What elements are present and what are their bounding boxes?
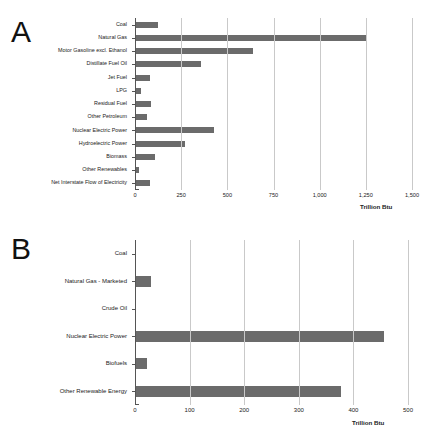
panel-b-x-tick-labels: 0100200300400500 bbox=[135, 407, 408, 419]
y-axis-tick bbox=[132, 78, 135, 79]
y-axis-tick bbox=[132, 91, 135, 92]
category-label: Other Renewables bbox=[0, 164, 131, 177]
y-axis-tick bbox=[132, 391, 135, 392]
gridline bbox=[190, 240, 191, 405]
panel-a-axis-title: Trillion Btu bbox=[360, 203, 392, 210]
panel-a-category-labels: CoalNatural GasMotor Gasoline excl. Etha… bbox=[0, 18, 131, 190]
x-tick-label: 500 bbox=[403, 407, 413, 413]
bar[interactable] bbox=[136, 114, 147, 120]
y-axis-tick bbox=[132, 51, 135, 52]
category-label: Distillate Fuel Oil bbox=[0, 58, 131, 71]
gridline bbox=[181, 18, 182, 190]
category-label: Crude Oil bbox=[0, 295, 131, 323]
bar-row[interactable] bbox=[135, 350, 408, 378]
x-tick-label: 0 bbox=[133, 407, 136, 413]
gridline bbox=[320, 18, 321, 190]
y-axis-tick bbox=[132, 130, 135, 131]
x-axis-origin-mark bbox=[135, 189, 139, 190]
category-label: Other Renewable Energy bbox=[0, 378, 131, 406]
bar[interactable] bbox=[136, 331, 384, 342]
bar[interactable] bbox=[136, 276, 151, 287]
y-axis-tick bbox=[132, 25, 135, 26]
y-axis-tick bbox=[132, 364, 135, 365]
y-axis-tick bbox=[132, 254, 135, 255]
x-tick-label: 300 bbox=[294, 407, 304, 413]
category-label: Hydroelectric Power bbox=[0, 137, 131, 150]
gridline bbox=[274, 18, 275, 190]
category-label: Motor Gasoline excl. Ethanol bbox=[0, 44, 131, 57]
x-tick-label: 0 bbox=[133, 192, 136, 198]
y-axis-tick bbox=[132, 104, 135, 105]
gridline bbox=[299, 240, 300, 405]
x-tick-label: 200 bbox=[239, 407, 249, 413]
category-label: Residual Fuel bbox=[0, 97, 131, 110]
bar[interactable] bbox=[136, 35, 367, 41]
panel-b-category-labels: CoalNatural Gas - MarketedCrude OilNucle… bbox=[0, 240, 131, 405]
bar[interactable] bbox=[136, 167, 139, 173]
y-axis-tick bbox=[132, 183, 135, 184]
category-label: LPG bbox=[0, 84, 131, 97]
y-axis-tick bbox=[132, 144, 135, 145]
bar[interactable] bbox=[136, 88, 141, 94]
x-tick-label: 400 bbox=[348, 407, 358, 413]
bar-row[interactable] bbox=[135, 378, 408, 406]
x-tick-label: 250 bbox=[176, 192, 185, 198]
y-axis-tick bbox=[132, 64, 135, 65]
y-axis-tick bbox=[132, 170, 135, 171]
panel-b-bar-rows bbox=[135, 240, 408, 405]
gridline bbox=[408, 240, 409, 405]
bar[interactable] bbox=[136, 358, 147, 369]
gridline bbox=[244, 240, 245, 405]
gridline bbox=[412, 18, 413, 190]
gridline bbox=[227, 18, 228, 190]
category-label: Natural Gas - Marketed bbox=[0, 268, 131, 296]
bar[interactable] bbox=[136, 180, 150, 186]
x-tick-label: 100 bbox=[185, 407, 195, 413]
category-label: Other Petroleum bbox=[0, 111, 131, 124]
category-label: Biomass bbox=[0, 150, 131, 163]
y-axis-tick bbox=[132, 281, 135, 282]
x-tick-label: 500 bbox=[223, 192, 232, 198]
bar[interactable] bbox=[136, 154, 155, 160]
bar[interactable] bbox=[136, 386, 341, 397]
bar[interactable] bbox=[136, 141, 185, 147]
category-label: Natural Gas bbox=[0, 31, 131, 44]
gridline bbox=[366, 18, 367, 190]
bar-row[interactable] bbox=[135, 323, 408, 351]
x-axis-origin-mark bbox=[135, 404, 139, 405]
panel-b-axis-title: Trillion Btu bbox=[352, 419, 384, 426]
panel-a: A CoalNatural GasMotor Gasoline excl. Et… bbox=[0, 0, 432, 222]
y-axis-tick bbox=[132, 117, 135, 118]
category-label: Coal bbox=[0, 240, 131, 268]
bar[interactable] bbox=[136, 127, 214, 133]
category-label: Jet Fuel bbox=[0, 71, 131, 84]
bar[interactable] bbox=[136, 101, 151, 107]
y-axis-tick bbox=[132, 336, 135, 337]
bar[interactable] bbox=[136, 48, 253, 54]
category-label: Nuclear Electric Power bbox=[0, 323, 131, 351]
gridline bbox=[353, 240, 354, 405]
x-tick-label: 1,250 bbox=[359, 192, 373, 198]
bar-row[interactable] bbox=[135, 295, 408, 323]
category-label: Net Interstate Flow of Electricity bbox=[0, 177, 131, 190]
category-label: Nuclear Electric Power bbox=[0, 124, 131, 137]
category-label: Coal bbox=[0, 18, 131, 31]
panel-b-plot-area bbox=[135, 240, 408, 405]
y-axis-tick bbox=[132, 38, 135, 39]
bar[interactable] bbox=[136, 61, 201, 67]
x-tick-label: 1,000 bbox=[313, 192, 327, 198]
category-label: Biofuels bbox=[0, 350, 131, 378]
y-axis-tick bbox=[132, 157, 135, 158]
bar-row[interactable] bbox=[135, 268, 408, 296]
bar[interactable] bbox=[136, 75, 150, 81]
x-tick-label: 1,500 bbox=[405, 192, 419, 198]
panel-a-plot-area bbox=[135, 18, 412, 190]
bar-row[interactable] bbox=[135, 240, 408, 268]
bar[interactable] bbox=[136, 22, 158, 28]
y-axis-tick bbox=[132, 309, 135, 310]
x-tick-label: 750 bbox=[269, 192, 278, 198]
